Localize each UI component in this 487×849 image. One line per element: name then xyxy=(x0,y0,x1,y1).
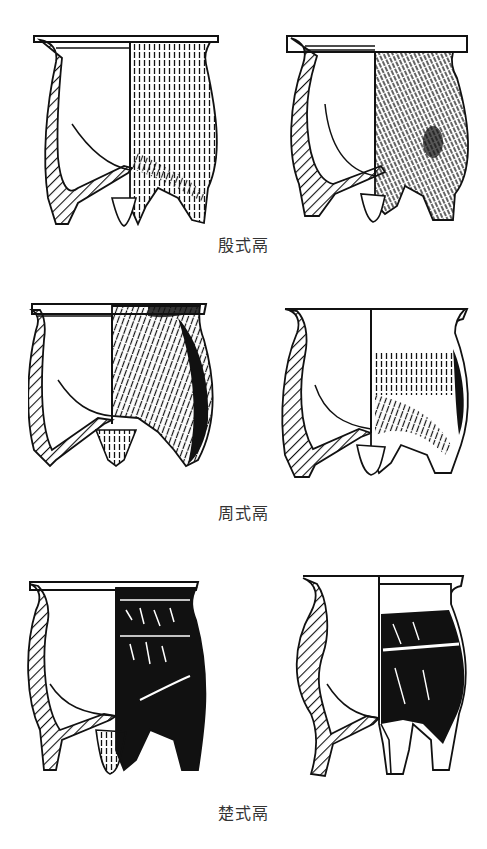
yin-li-right-vessel xyxy=(285,34,475,230)
chu-li-right-vessel xyxy=(283,574,473,784)
zhou-li-left-vessel xyxy=(28,300,218,475)
caption-chu-li: 楚式鬲 xyxy=(0,800,487,824)
caption-yin-li: 殷式鬲 xyxy=(0,232,487,256)
yin-li-left-vessel xyxy=(28,28,228,228)
chu-li-left-vessel xyxy=(20,580,210,780)
zhou-li-right-vessel xyxy=(275,305,475,480)
caption-zhou-li: 周式鬲 xyxy=(0,500,487,524)
